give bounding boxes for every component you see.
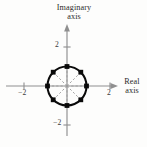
imaginary-axis-label-line2: axis bbox=[67, 12, 81, 21]
root-point-135deg bbox=[51, 70, 56, 75]
root-point-180deg bbox=[45, 84, 50, 89]
tick-label-y-negative-2: −2 bbox=[53, 119, 61, 127]
root-point-45deg bbox=[78, 70, 83, 75]
real-axis-label: Real axis bbox=[117, 78, 147, 95]
tick-label-y-positive-2: 2 bbox=[55, 41, 59, 49]
root-point-225deg bbox=[51, 97, 56, 102]
imaginary-axis-label: Imaginary axis bbox=[49, 4, 99, 21]
plot-background bbox=[0, 0, 147, 147]
root-point-0deg bbox=[84, 84, 89, 89]
real-axis-label-line2: axis bbox=[125, 86, 139, 95]
root-point-315deg bbox=[78, 97, 83, 102]
root-point-90deg bbox=[65, 64, 70, 69]
tick-label-x-positive-2: 2 bbox=[107, 89, 111, 97]
tick-label-x-negative-2: −2 bbox=[18, 89, 26, 97]
plot-canvas bbox=[0, 0, 147, 147]
root-point-270deg bbox=[65, 103, 70, 108]
complex-plane-figure: Imaginary axis Real axis −2 2 2 −2 bbox=[0, 0, 147, 147]
